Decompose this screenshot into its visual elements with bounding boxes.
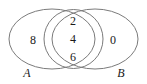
region-b-only-value: 0 bbox=[110, 34, 116, 46]
region-intersection-value-3: 6 bbox=[70, 51, 76, 63]
region-intersection-value-2: 4 bbox=[70, 33, 76, 45]
set-b-label: B bbox=[117, 67, 124, 79]
set-a-label: A bbox=[23, 67, 30, 79]
venn-diagram-figure: 8 2 4 6 0 A B bbox=[0, 0, 147, 84]
region-a-only-value: 8 bbox=[30, 34, 36, 46]
region-intersection-value-1: 2 bbox=[70, 15, 76, 27]
